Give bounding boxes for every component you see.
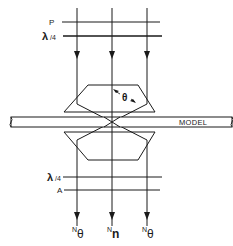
output-symbol: n [112, 227, 119, 241]
output-symbol: θ [77, 227, 84, 241]
angle-theta-annotation: θ [113, 89, 136, 103]
output-label-left: N θ [72, 226, 84, 241]
quarter-wave-fraction-bottom: /4 [55, 175, 61, 182]
photoelastic-oblique-incidence-diagram: θ P λ /4 MODEL λ /4 A N θ N n N θ [0, 0, 233, 246]
output-symbol: θ [147, 227, 154, 241]
output-label-center: N n [107, 226, 119, 241]
down-arrow-icon-top [74, 51, 150, 59]
quarter-wave-symbol-top: λ [42, 30, 48, 42]
quarter-wave-fraction-top: /4 [50, 34, 56, 41]
output-label-right: N θ [142, 226, 154, 241]
model-label: MODEL [179, 118, 207, 127]
lower-prism [64, 132, 155, 160]
polarizer-label: P [49, 18, 54, 27]
quarter-wave-symbol-bottom: λ [47, 171, 53, 183]
analyzer-label: A [57, 186, 63, 195]
upper-prism [64, 85, 155, 112]
down-arrow-icon-bottom [74, 212, 150, 220]
angle-theta-label: θ [122, 92, 127, 103]
